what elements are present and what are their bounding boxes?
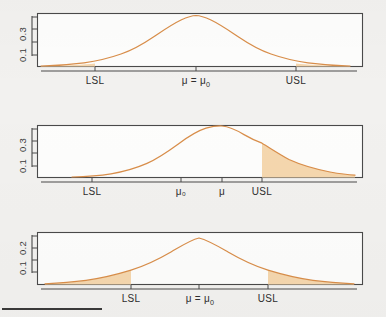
x-tick-label-lsl: LSL	[83, 186, 102, 197]
svg-text:μ = μ0: μ = μ0	[182, 75, 211, 89]
panel-3-svg: 0.2 0.1 LSL μ = μ0 USL	[0, 208, 386, 317]
chart-panel-shifted-mean: 0.3 0.1 LSL μ₀ μ USL	[0, 103, 386, 209]
mu-eq-mu-text: μ = μ	[182, 75, 206, 86]
plot-frame	[38, 233, 363, 285]
x-tick-label-mu-eq-mu0: μ = μ0	[186, 293, 215, 307]
x-tick-label-usl: USL	[258, 293, 278, 304]
plot-frame	[38, 14, 363, 67]
mu-subscript-0: 0	[210, 298, 214, 307]
x-tick-label-lsl: LSL	[86, 75, 105, 86]
x-tick-label-mu0: μ₀	[176, 186, 187, 197]
panel-2-svg: 0.3 0.1 LSL μ₀ μ USL	[0, 103, 386, 209]
x-tick-label-usl: USL	[286, 75, 306, 86]
y-tick-label-0-1: 0.1	[17, 48, 28, 62]
y-tick-label-0-3: 0.3	[17, 27, 28, 41]
svg-text:μ = μ0: μ = μ0	[186, 293, 215, 307]
y-axis-ticks	[32, 235, 38, 273]
x-tick-label-lsl: LSL	[122, 293, 141, 304]
y-tick-label-0-3: 0.3	[17, 138, 28, 152]
chart-panel-excess-spread: 0.2 0.1 LSL μ = μ0 USL	[0, 208, 386, 317]
y-tick-label-0-2: 0.2	[17, 241, 28, 255]
y-tick-label-0-1: 0.1	[17, 159, 28, 173]
x-tick-label-mu: μ	[219, 186, 225, 197]
y-axis-ticks	[32, 16, 38, 56]
panel-1-svg: 0.3 0.1 LSL μ = μ0 USL	[0, 0, 386, 106]
y-axis-ticks	[32, 128, 38, 167]
y-tick-label-0-1: 0.1	[17, 261, 28, 275]
mu-eq-mu-text: μ = μ	[186, 293, 210, 304]
mu-subscript-0: 0	[206, 80, 210, 89]
x-tick-label-mu-eq-mu0: μ = μ0	[182, 75, 211, 89]
chart-panel-centered-capable: 0.3 0.1 LSL μ = μ0 USL	[0, 0, 386, 106]
x-tick-label-usl: USL	[252, 186, 272, 197]
scan-artifact-line	[2, 308, 102, 310]
